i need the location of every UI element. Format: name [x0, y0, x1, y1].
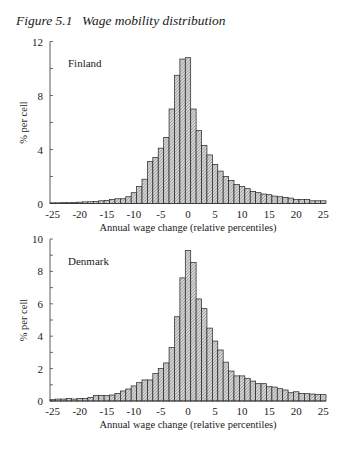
- histogram-bar: [174, 75, 179, 203]
- histogram-bar: [185, 250, 190, 401]
- histogram-bar: [142, 179, 147, 203]
- histogram-bar: [164, 363, 169, 401]
- y-tick-label: 4: [38, 144, 44, 156]
- histogram-bar: [120, 199, 125, 204]
- histogram-bar: [250, 191, 255, 203]
- x-tick-label: -15: [99, 208, 114, 220]
- x-tick-label: 10: [237, 208, 249, 220]
- x-tick-label: -25: [45, 208, 60, 220]
- finland-chart: 04812-25-20-15-10-50510152025Annual wage…: [18, 36, 329, 234]
- histogram-bar: [174, 317, 179, 401]
- x-axis-title: Annual wage change (relative percentiles…: [99, 419, 277, 431]
- histogram-bar: [104, 201, 109, 204]
- x-tick-label: 20: [291, 405, 303, 417]
- histogram-bar: [277, 389, 282, 401]
- histogram-bar: [283, 390, 288, 401]
- histogram-bar: [207, 328, 212, 401]
- histogram-bar: [158, 148, 163, 203]
- histogram-bar: [185, 58, 190, 204]
- histogram-bar: [88, 397, 93, 401]
- histogram-bar: [126, 389, 131, 401]
- x-tick-label: -15: [99, 405, 114, 417]
- x-tick-label: 10: [237, 405, 249, 417]
- histogram-bar: [288, 393, 293, 401]
- x-tick-label: 15: [264, 405, 276, 417]
- x-tick-label: 5: [212, 405, 218, 417]
- histogram-bar: [229, 371, 234, 401]
- denmark-chart: 0246810-25-20-15-10-50510152025Annual wa…: [18, 233, 329, 431]
- histogram-bar: [223, 362, 228, 401]
- histogram-bar: [196, 131, 201, 204]
- histogram-bar: [115, 199, 120, 204]
- histogram-bar: [218, 171, 223, 203]
- x-tick-label: 0: [185, 208, 191, 220]
- histogram-bar: [212, 341, 217, 401]
- histogram-bar: [272, 196, 277, 203]
- histogram-bar: [261, 194, 266, 203]
- histogram-bar: [180, 59, 185, 203]
- y-tick-label: 8: [38, 90, 44, 102]
- histogram-bar: [191, 262, 196, 401]
- histogram-bar: [234, 185, 239, 204]
- x-tick-label: -20: [72, 405, 87, 417]
- histogram-bar: [169, 348, 174, 401]
- histogram-bar: [239, 187, 244, 204]
- histogram-bar: [261, 384, 266, 401]
- y-tick-label: 0: [38, 395, 44, 407]
- histogram-bar: [137, 383, 142, 401]
- x-tick-label: 0: [185, 405, 191, 417]
- x-tick-label: -10: [127, 208, 142, 220]
- histogram-bar: [158, 369, 163, 401]
- y-tick-label: 0: [38, 198, 44, 210]
- histogram-bar: [126, 197, 131, 204]
- histogram-bar: [315, 201, 320, 204]
- histogram-bar: [283, 197, 288, 203]
- y-tick-label: 8: [38, 265, 44, 277]
- histogram-bar: [131, 193, 136, 204]
- histogram-bar: [202, 145, 207, 203]
- histogram-bar: [256, 384, 261, 401]
- x-tick-label: -10: [127, 405, 142, 417]
- x-tick-label: -25: [45, 405, 60, 417]
- histogram-bar: [110, 199, 115, 203]
- histogram-bar: [299, 199, 304, 203]
- histogram-bar: [310, 201, 315, 204]
- histogram-bar: [142, 380, 147, 401]
- histogram-bar: [266, 387, 271, 401]
- histogram-bar: [110, 395, 115, 401]
- histogram-bar: [294, 199, 299, 203]
- histogram-bar: [137, 187, 142, 204]
- chart-canvas: 04812-25-20-15-10-50510152025Annual wage…: [0, 0, 351, 456]
- histogram-bar: [315, 394, 320, 401]
- histogram-bar: [104, 396, 109, 401]
- histogram-bar: [299, 393, 304, 401]
- y-tick-label: 12: [32, 36, 43, 48]
- y-tick-label: 2: [38, 363, 44, 375]
- histogram-bar: [191, 109, 196, 204]
- histogram-bar: [229, 181, 234, 204]
- histogram-bar: [245, 189, 250, 204]
- histogram-bar: [321, 201, 326, 204]
- x-tick-label: 25: [318, 405, 330, 417]
- histogram-bar: [147, 380, 152, 401]
- histogram-bar: [180, 278, 185, 401]
- panel-label: Finland: [68, 57, 102, 69]
- histogram-bar: [294, 392, 299, 401]
- y-axis-title: % per cell: [18, 299, 29, 342]
- x-tick-label: 25: [318, 208, 330, 220]
- y-tick-label: 10: [32, 233, 44, 245]
- x-tick-label: 20: [291, 208, 303, 220]
- histogram-bar: [153, 158, 158, 204]
- histogram-bar: [93, 395, 98, 401]
- histogram-bar: [131, 386, 136, 401]
- histogram-bar: [202, 309, 207, 401]
- x-tick-label: -20: [72, 208, 87, 220]
- histogram-bar: [256, 193, 261, 204]
- x-axis-title: Annual wage change (relative percentiles…: [99, 222, 277, 234]
- histogram-bar: [164, 137, 169, 203]
- histogram-bar: [288, 198, 293, 203]
- histogram-bar: [120, 391, 125, 401]
- histogram-bar: [266, 195, 271, 204]
- histogram-bar: [321, 395, 326, 401]
- histogram-bar: [245, 378, 250, 401]
